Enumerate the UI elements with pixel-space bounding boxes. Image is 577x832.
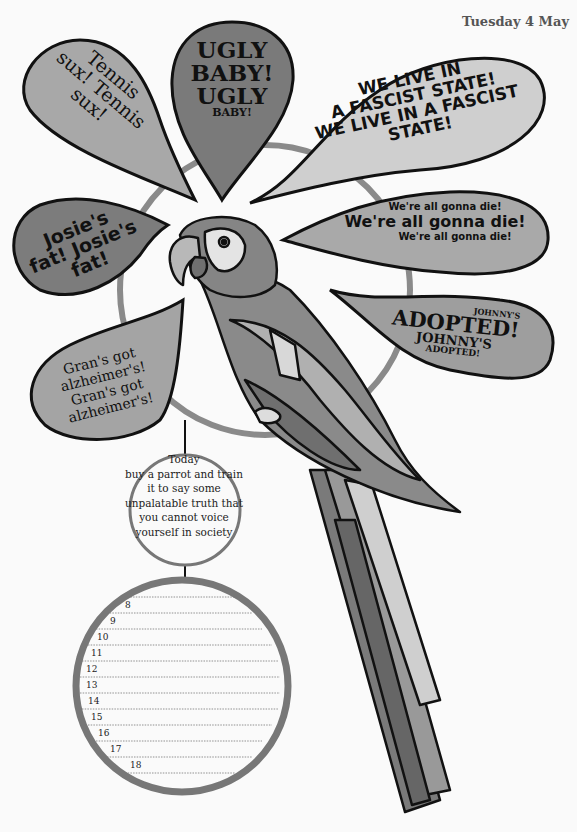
hour-label: 14 (88, 696, 99, 706)
hour-label: 12 (86, 664, 97, 674)
tip-body: buy a parrot and train it to say some un… (120, 467, 248, 540)
hour-label: 8 (125, 600, 131, 610)
hour-label: 15 (91, 712, 102, 722)
bubble-text-gonna-die: We're all gonna die! We're all gonna die… (325, 202, 545, 242)
bubble-line: BABY! (188, 61, 276, 84)
bubble-line: We're all gonna die! (325, 214, 545, 230)
planner-circle (76, 580, 288, 792)
hour-label: 18 (130, 760, 141, 770)
bubble-line: UGLY (188, 38, 276, 61)
hour-label: 13 (86, 680, 97, 690)
daily-tip: Today buy a parrot and train it to say s… (120, 452, 248, 539)
bubble-line: We're all gonna die! (365, 232, 545, 242)
hour-label: 17 (110, 744, 121, 754)
bubble-line: UGLY (188, 84, 276, 107)
bubble-line: We're all gonna die! (345, 202, 545, 212)
hour-label: 10 (97, 632, 108, 642)
bubble-text-ugly-baby: UGLY BABY! UGLY BABY! (188, 38, 276, 118)
hour-label: 11 (91, 648, 102, 658)
hour-label: 9 (110, 616, 116, 626)
tip-title: Today (120, 452, 248, 467)
hour-label: 16 (98, 728, 109, 738)
